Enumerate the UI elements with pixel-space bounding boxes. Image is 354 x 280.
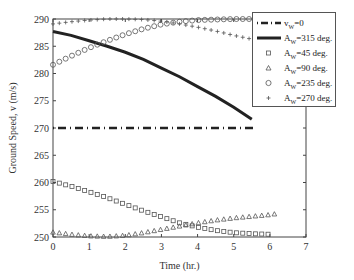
- legend-item-235: AW=235 deg.: [253, 76, 335, 90]
- legend-item-270: AW=270 deg.: [253, 91, 335, 105]
- y-tick-label: 265: [34, 150, 49, 161]
- y-tick-label: 250: [34, 232, 49, 243]
- x-tick-label: 4: [195, 241, 200, 252]
- x-tick-label: 5: [231, 241, 236, 252]
- x-tick-label: 0: [51, 241, 56, 252]
- y-axis-label: Ground Speed, v (m/s): [7, 82, 19, 173]
- legend-item-315: AW=315 deg.: [253, 31, 335, 45]
- x-axis-label: Time (hr.): [159, 260, 199, 272]
- series-triangle-markers: [51, 212, 277, 239]
- plus-marker-icon: [256, 91, 282, 105]
- x-tick-label: 3: [159, 241, 164, 252]
- y-tick-label: 260: [34, 177, 49, 188]
- legend-item-vw0: vW=0: [253, 16, 335, 30]
- series-aw315: [53, 32, 252, 120]
- solid-line-icon: [256, 31, 282, 45]
- x-tick-label: 6: [267, 241, 272, 252]
- dash-dot-line-icon: [256, 16, 282, 30]
- legend: vW=0 AW=315 deg. AW=45 deg. AW=90 deg. A…: [252, 12, 336, 107]
- triangle-marker-icon: [256, 61, 282, 75]
- y-tick-label: 285: [34, 41, 49, 52]
- x-tick-label: 7: [304, 241, 309, 252]
- square-marker-icon: [256, 46, 282, 60]
- y-tick-label: 280: [34, 68, 49, 79]
- y-tick-label: 290: [34, 14, 49, 25]
- y-tick-label: 275: [34, 95, 49, 106]
- y-tick-label: 255: [34, 204, 49, 215]
- x-tick-label: 1: [87, 241, 92, 252]
- y-tick-label: 270: [34, 123, 49, 134]
- x-tick-label: 2: [123, 241, 128, 252]
- circle-marker-icon: [256, 76, 282, 90]
- legend-item-90: AW=90 deg.: [253, 61, 335, 75]
- series-circle-markers: [51, 17, 277, 68]
- legend-item-45: AW=45 deg.: [253, 46, 335, 60]
